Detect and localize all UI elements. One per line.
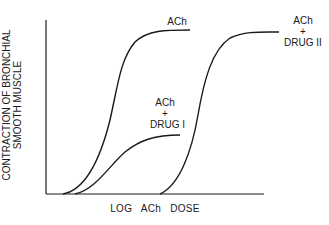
label-ach-drug1-line3: DRUG I	[150, 119, 180, 130]
label-ach-drug2: ACh + DRUG II	[284, 15, 322, 48]
label-ach-drug1-plus: +	[150, 108, 180, 119]
y-axis-label-line1: CONTRACTION OF BRONCHIAL	[1, 29, 12, 180]
label-ach-drug2-plus: +	[284, 26, 322, 37]
label-ach-drug2-line1: ACh	[284, 15, 322, 26]
y-axis-label-line2: SMOOTH MUSCLE	[12, 29, 23, 180]
x-axis-label: LOG ACh DOSE	[110, 203, 200, 214]
label-ach: ACh	[165, 16, 189, 27]
label-ach-drug1-line1: ACh	[150, 97, 180, 108]
label-ach-drug1: ACh + DRUG I	[150, 97, 180, 130]
label-ach-drug2-line3: DRUG II	[284, 37, 322, 48]
curve-ach-drug1	[75, 135, 180, 194]
